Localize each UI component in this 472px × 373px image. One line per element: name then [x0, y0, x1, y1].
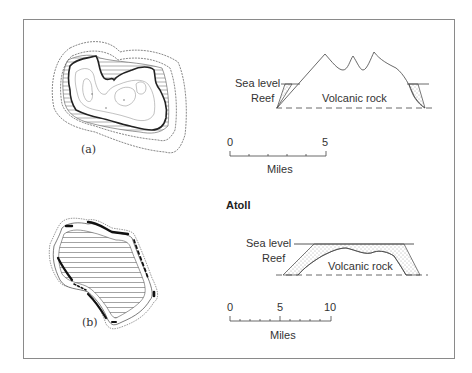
panel-b-label: (b)	[82, 317, 98, 328]
section-title: Atoll	[226, 200, 250, 211]
scale-bar-a	[230, 151, 326, 156]
right-reef	[409, 84, 425, 108]
island-map-a	[52, 42, 186, 153]
scale-bar-b	[230, 316, 331, 321]
rock-label-a: Volcanic rock	[322, 93, 387, 104]
sea-level-label-a: Sea level	[235, 78, 280, 89]
panel-a-label: (a)	[81, 144, 96, 155]
scale-start-label-a: 0	[227, 137, 233, 148]
scale-end-label-b: 10	[324, 302, 336, 313]
scale-start-label-b: 0	[227, 302, 233, 313]
scale-end-label-a: 5	[322, 137, 328, 148]
atoll-formation-figure: (a) Sea level Reef Volcanic rock 0 5 Mil…	[0, 0, 472, 373]
reef-label-a: Reef	[251, 93, 274, 104]
reef-label-b: Reef	[262, 253, 285, 264]
atoll-map-b	[49, 218, 157, 329]
scale-unit-label-a: Miles	[267, 164, 293, 175]
sea-level-label-b: Sea level	[246, 238, 291, 249]
rock-label-b: Volcanic rock	[328, 261, 393, 272]
scale-unit-label-b: Miles	[270, 330, 296, 341]
scale-mid-label-b: 5	[277, 302, 283, 313]
diagram-graphics	[0, 0, 472, 373]
